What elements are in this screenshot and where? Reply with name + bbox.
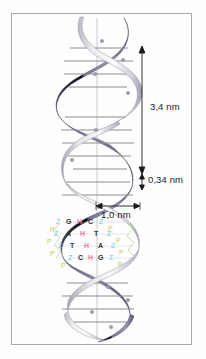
bp-row-0-hbond: H [77, 218, 82, 225]
bp-row-1-hbond: H [80, 230, 85, 237]
diameter-label: 1,0 nm [101, 209, 131, 220]
bp-row-1-left-phosphate: P [47, 238, 52, 245]
bp-row-3-left-sugar: Z [68, 254, 72, 261]
bp-row-3-right-sugar: Z [109, 254, 113, 261]
bp-row-3-right-phosphate: P [118, 261, 123, 268]
bp-row-2-left-base: T [70, 242, 74, 249]
bp-row-0-right-base: C [88, 218, 93, 225]
bp-row-2-right-sugar: Z [111, 242, 115, 249]
dna-figure: 3,4 nm 0,34 nm 1,0 nm Z G H C Z P P Z A … [0, 0, 206, 359]
pitch-label: 3,4 nm [150, 101, 180, 112]
pitch-arrow [139, 46, 145, 174]
bp-row-2-right-base: A [98, 242, 103, 249]
rise-arrow [140, 174, 145, 190]
bp-row-1-left-base: A [66, 230, 71, 237]
bp-row-2-right-phosphate: P [119, 249, 124, 256]
rise-label: 0,34 nm [148, 174, 183, 185]
bp-row-1-right-base: T [94, 230, 98, 237]
bp-row-1-left-sugar: Z [54, 230, 58, 237]
bp-row-3-left-base: C [78, 254, 83, 261]
bp-row-2-left-sugar: Z [58, 242, 62, 249]
bp-row-2-hbond: H [84, 242, 89, 249]
bp-row-2-left-phosphate: P [50, 250, 55, 257]
bp-row-0-left-sugar: Z [56, 218, 60, 225]
nucleotide-nodes [70, 39, 129, 328]
bp-row-0-right-sugar: Z [99, 218, 103, 225]
bp-row-1-right-sugar: Z [107, 230, 111, 237]
bp-row-1-right-phosphate: P [116, 237, 121, 244]
bp-row-3-left-phosphate: P [61, 262, 66, 269]
bp-row-3-hbond: H [88, 254, 93, 261]
dna-double-helix [56, 17, 142, 342]
bp-row-0-left-base: G [66, 218, 71, 225]
bp-row-3-right-base: G [98, 254, 103, 261]
